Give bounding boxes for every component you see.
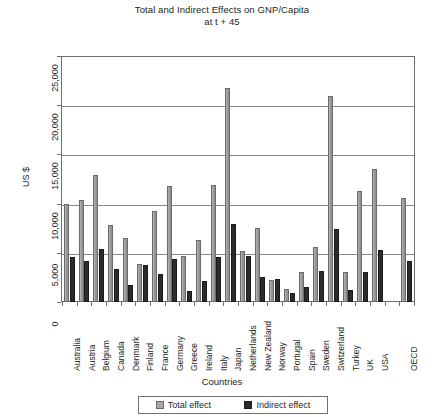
- chart-title-line1: Total and Indirect Effects on GNP/Capita: [135, 4, 309, 15]
- bar-total-effect: [167, 186, 172, 302]
- bar-group: [135, 56, 150, 302]
- bar-group: [297, 56, 312, 302]
- bar-group: [326, 56, 341, 302]
- bar-indirect-effect: [99, 249, 104, 302]
- legend-item: Total effect: [156, 400, 211, 410]
- y-axis-title: US $: [21, 147, 31, 207]
- y-tick-label: 5,000: [50, 252, 60, 298]
- bar-total-effect: [299, 272, 304, 302]
- legend-swatch-indirect: [244, 401, 252, 409]
- bar-total-effect: [93, 175, 98, 302]
- x-tick-label: Turkey: [352, 345, 361, 371]
- x-tick-mark: [91, 302, 92, 306]
- x-tick-mark: [355, 302, 356, 306]
- bar-group: [311, 56, 326, 302]
- bar-total-effect: [196, 240, 201, 302]
- x-tick-mark: [179, 302, 180, 306]
- x-tick-mark: [194, 302, 195, 306]
- x-tick-label: Italy: [220, 355, 229, 371]
- y-tick-label: 10,000: [50, 203, 60, 249]
- x-tick-mark: [370, 302, 371, 306]
- bar-total-effect: [357, 191, 362, 302]
- bar-indirect-effect: [348, 290, 353, 302]
- bar-indirect-effect: [407, 261, 412, 302]
- bar-group: [62, 56, 77, 302]
- x-tick-mark: [121, 302, 122, 306]
- x-tick-label: Austria: [88, 345, 97, 371]
- chart-subtitle: at t + 45: [0, 16, 444, 28]
- legend-swatch-total: [156, 401, 164, 409]
- x-tick-mark: [209, 302, 210, 306]
- bar-group: [370, 56, 385, 302]
- x-tick-mark: [77, 302, 78, 306]
- x-tick-mark: [311, 302, 312, 306]
- bar-group: [238, 56, 253, 302]
- bar-total-effect: [123, 238, 128, 302]
- bar-indirect-effect: [260, 277, 265, 302]
- x-tick-mark: [253, 302, 254, 306]
- bar-indirect-effect: [202, 281, 207, 302]
- bars-layer: [62, 56, 414, 302]
- x-tick-label: Denmark: [132, 337, 141, 371]
- x-tick-mark: [165, 302, 166, 306]
- x-tick-mark: [326, 302, 327, 306]
- bar-total-effect: [313, 247, 318, 302]
- y-tick-label: 25,000: [50, 55, 60, 101]
- x-tick-label: Canada: [117, 341, 126, 371]
- x-tick-label: Switzerland: [337, 327, 346, 371]
- bar-group: [399, 56, 414, 302]
- bar-indirect-effect: [128, 285, 133, 302]
- bar-total-effect: [269, 280, 274, 302]
- bar-indirect-effect: [70, 257, 75, 302]
- bar-group: [209, 56, 224, 302]
- bar-indirect-effect: [172, 259, 177, 302]
- bar-group: [121, 56, 136, 302]
- bar-indirect-effect: [378, 250, 383, 302]
- bar-group: [179, 56, 194, 302]
- bar-group: [150, 56, 165, 302]
- bar-total-effect: [108, 225, 113, 302]
- y-tick-label: 15,000: [50, 153, 60, 199]
- chart-legend: Total effectIndirect effect: [138, 396, 328, 414]
- bar-group: [267, 56, 282, 302]
- x-tick-label: Belgium: [102, 340, 111, 371]
- x-tick-label: Norway: [278, 342, 287, 371]
- bar-indirect-effect: [304, 287, 309, 302]
- legend-item: Indirect effect: [244, 400, 310, 410]
- bar-indirect-effect: [334, 229, 339, 302]
- bar-total-effect: [211, 185, 216, 302]
- x-tick-label: Germany: [176, 336, 185, 371]
- bar-total-effect: [240, 251, 245, 302]
- chart-title: Total and Indirect Effects on GNP/Capita…: [0, 4, 444, 28]
- bar-total-effect: [255, 228, 260, 302]
- bar-group: [106, 56, 121, 302]
- bar-indirect-effect: [290, 293, 295, 302]
- bar-group: [341, 56, 356, 302]
- x-axis-title: Countries: [0, 376, 444, 387]
- bar-total-effect: [284, 289, 289, 302]
- x-tick-label: Spain: [308, 349, 317, 371]
- bar-indirect-effect: [84, 261, 89, 302]
- x-tick-label: Portugal: [293, 339, 302, 371]
- bar-indirect-effect: [187, 291, 192, 302]
- bar-indirect-effect: [158, 274, 163, 302]
- x-tick-mark: [150, 302, 151, 306]
- bar-indirect-effect: [275, 279, 280, 302]
- x-tick-mark: [106, 302, 107, 306]
- bar-total-effect: [372, 169, 377, 302]
- bar-group: [91, 56, 106, 302]
- bar-group: [223, 56, 238, 302]
- x-tick-mark: [282, 302, 283, 306]
- bar-total-effect: [181, 256, 186, 302]
- bar-total-effect: [225, 88, 230, 302]
- x-tick-label: Finland: [146, 343, 155, 371]
- x-tick-mark: [267, 302, 268, 306]
- bar-group: [165, 56, 180, 302]
- x-tick-mark: [414, 302, 415, 306]
- x-axis-labels: AustraliaAustriaBelgiumCanadaDenmarkFinl…: [62, 307, 414, 373]
- x-tick-label: France: [161, 345, 170, 371]
- bar-total-effect: [152, 211, 157, 302]
- bar-indirect-effect: [246, 256, 251, 302]
- bar-group: [355, 56, 370, 302]
- bar-total-effect: [79, 200, 84, 302]
